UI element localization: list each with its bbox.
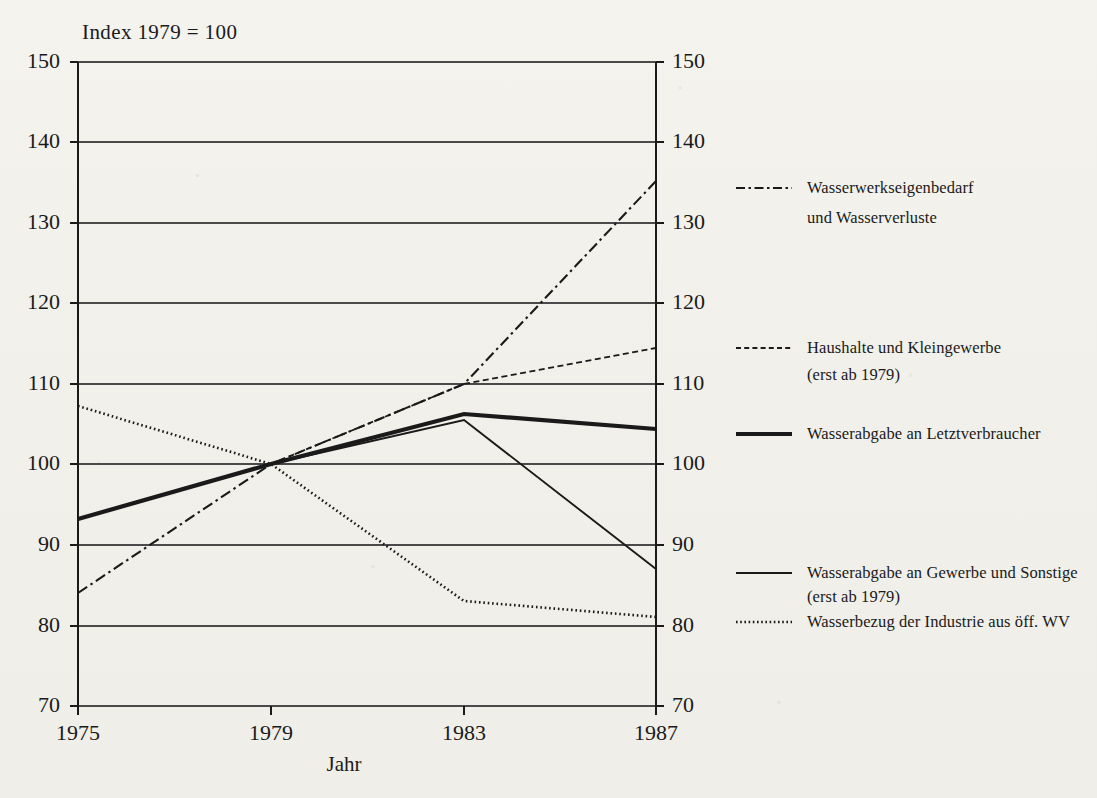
thick-solid-line-sample bbox=[735, 428, 793, 440]
legend-label-line2: (erst ab 1979) bbox=[807, 365, 900, 385]
chart-legend: Wasserwerkseigenbedarf und Wasserverlust… bbox=[0, 0, 1097, 798]
legend-label-line2: und Wasserverluste bbox=[807, 208, 937, 228]
legend-label-line1: Wasserbezug der Industrie aus öff. WV bbox=[807, 612, 1070, 632]
legend-label-line1: Wasserwerkseigenbedarf bbox=[807, 178, 974, 198]
dotted-line-sample bbox=[735, 616, 793, 628]
legend-label-line1: Wasserabgabe an Letztverbraucher bbox=[807, 424, 1041, 444]
dashed-line-sample bbox=[735, 342, 793, 354]
legend-label-line1: Wasserabgabe an Gewerbe und Sonstige bbox=[807, 563, 1078, 583]
line-chart: Index 1979 = 100 bbox=[0, 0, 1097, 798]
legend-label-line1: Haushalte und Kleingewerbe bbox=[807, 338, 1001, 358]
legend-label-line2: (erst ab 1979) bbox=[807, 587, 900, 607]
dash-dot-line-sample bbox=[735, 182, 793, 194]
thin-solid-line-sample bbox=[735, 567, 793, 579]
